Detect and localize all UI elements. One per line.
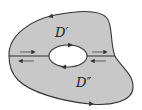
lower-region-label: D″ [75, 75, 91, 90]
inner-hole [49, 45, 87, 67]
region-diagram: D′ D″ [0, 0, 142, 110]
upper-region-label: D′ [54, 25, 68, 40]
